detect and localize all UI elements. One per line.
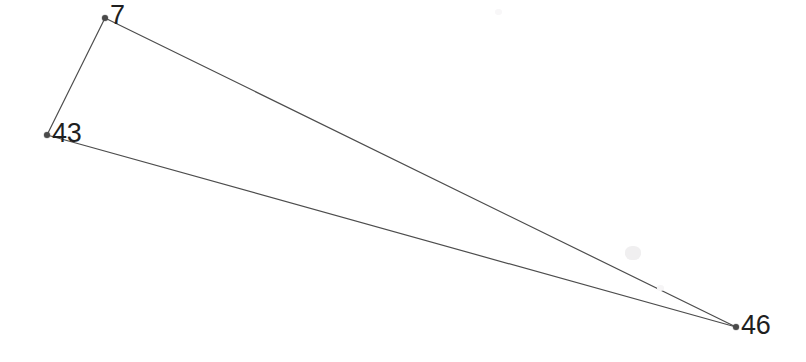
graph-node-label-46: 46 bbox=[741, 312, 770, 339]
edge-layer bbox=[0, 0, 806, 362]
graph-node-label-43: 43 bbox=[52, 120, 81, 147]
graph-edge-7-46[interactable] bbox=[105, 18, 736, 327]
graph-node-marker-7[interactable] bbox=[102, 15, 108, 21]
graph-canvas: 74346 bbox=[0, 0, 806, 362]
graph-node-label-7: 7 bbox=[110, 2, 125, 29]
graph-edge-43-46[interactable] bbox=[47, 135, 736, 327]
graph-node-marker-43[interactable] bbox=[44, 132, 50, 138]
graph-node-marker-46[interactable] bbox=[733, 324, 739, 330]
